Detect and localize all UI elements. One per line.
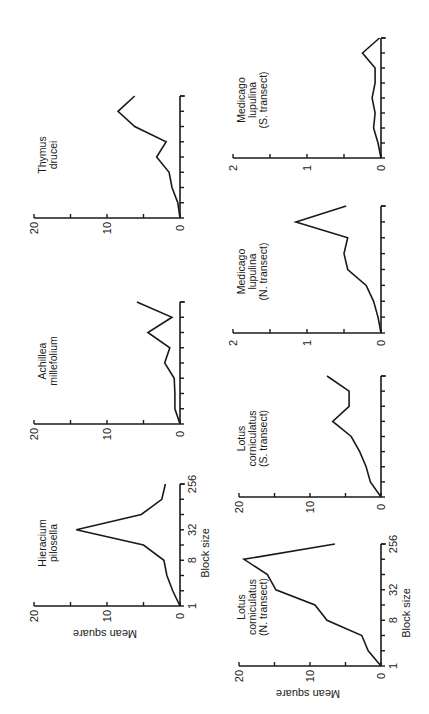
panel-title: (S. transect) [257,410,269,467]
x-tick-label: 1 [387,663,399,669]
y-tick-label: 2 [227,165,239,171]
y-tick-label: 10 [304,670,316,682]
y-tick-label: 0 [174,225,186,231]
x-axis-title: Block size [199,528,211,578]
y-tick-label: 10 [101,610,113,622]
x-tick-label: 32 [387,584,399,596]
y-tick-label: 0 [174,431,186,437]
y-axis-title: Mean square [73,628,137,640]
data-line [327,376,381,497]
panel-title: drucei [47,141,59,170]
data-line [137,302,180,424]
x-axis-title: Block size [400,588,412,638]
y-tick-label: 0 [375,504,387,510]
y-tick-label: 20 [28,428,40,440]
panel-title: pilosella [47,524,59,562]
panel-title: (N. transect) [257,243,269,301]
x-tick-label: 8 [186,557,198,563]
x-tick-label: 8 [387,617,399,623]
data-line [118,96,180,218]
panel-medicago-lupulina-n-transect: 012Medicagolupulina(N. transect) [227,206,387,346]
x-tick-label: 256 [186,475,198,493]
y-tick-label: 1 [301,165,313,171]
panel-achillea-millefolium: 01020Achilleamillefolium [28,302,186,440]
panel-medicago-lupulina-s-transect: 012Medicagolupulina(S. transect) [227,38,387,171]
y-tick-label: 0 [174,613,186,619]
x-tick-label: 32 [186,524,198,536]
figure: 010201832256Block sizeMean squareHieraci… [0,0,429,714]
y-tick-label: 20 [233,670,245,682]
panel-title: (S. transect) [257,71,269,128]
data-line [296,206,381,333]
panel-lotus-corniculatus-s-transect: 01020Lotuscorniculatus(S. transect) [233,376,387,513]
y-tick-label: 10 [101,428,113,440]
y-tick-label: 0 [375,165,387,171]
y-tick-label: 20 [233,501,245,513]
panel-title: millefolium [47,336,59,386]
panel-title: (N. transect) [257,578,269,636]
y-tick-label: 0 [375,673,387,679]
data-line [363,38,382,158]
y-tick-label: 1 [301,340,313,346]
panel-thymus-drucei: 01020Thymusdrucei [28,96,186,234]
y-tick-label: 20 [28,610,40,622]
x-tick-label: 256 [387,535,399,553]
y-axis-title: Mean square [276,688,340,700]
data-line [76,484,180,606]
y-tick-label: 2 [227,340,239,346]
y-tick-label: 10 [304,501,316,513]
panel-hieracium-pilosella: 010201832256Block sizeMean squareHieraci… [28,475,211,640]
y-tick-label: 0 [375,340,387,346]
y-tick-label: 10 [101,222,113,234]
y-tick-label: 20 [28,222,40,234]
panel-lotus-corniculatus-n-transect: 010201832256Block sizeMean squareLotusco… [233,535,412,700]
chart-canvas: 010201832256Block sizeMean squareHieraci… [0,0,429,714]
x-tick-label: 1 [186,603,198,609]
